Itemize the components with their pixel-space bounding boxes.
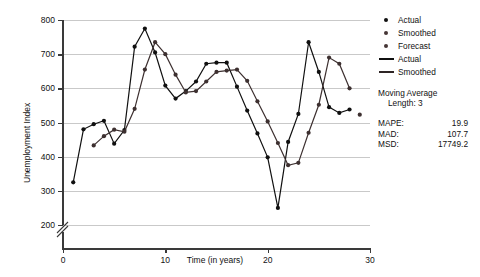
legend-item: Actual [378,53,478,65]
legend-line-icon [378,58,394,60]
x-tick [165,248,166,253]
legend-label: Actual [398,55,421,64]
data-point-smoothed [194,89,198,93]
data-point-actual [71,180,75,184]
x-tick [268,248,269,253]
data-point-actual [133,45,137,49]
method-length: Length: 3 [378,98,478,108]
legend-item: Smoothed [378,27,478,39]
time-series-chart: Unemployment Index 200300400500600700800… [0,0,480,277]
data-point-smoothed [255,99,259,103]
legend-marker-icon [378,44,394,49]
data-point-actual [153,50,157,54]
data-point-smoothed [122,130,126,134]
stat-row: MSD:17749.2 [378,139,478,150]
data-point-actual [337,111,341,115]
data-point-smoothed [173,73,177,77]
data-point-smoothed [133,107,137,111]
legend-item: Smoothed [378,66,478,78]
data-point-smoothed [296,161,300,165]
y-tick-label: 700 [27,50,55,59]
data-point-smoothed [235,67,239,71]
data-point-actual [143,26,147,30]
legend-marker-icon [378,18,394,23]
data-point-smoothed [225,68,229,72]
legend-item: Actual [378,14,478,26]
data-point-smoothed [317,103,321,107]
data-point-actual [81,127,85,131]
data-point-actual [307,40,311,44]
data-point-smoothed [337,62,341,66]
y-tick-label: 300 [27,187,55,196]
data-point-smoothed [214,70,218,74]
method-block: Moving Average Length: 3 [378,88,478,108]
data-point-smoothed [184,90,188,94]
x-axis-line [62,248,370,250]
data-point-smoothed [327,55,331,59]
accuracy-stats: MAPE:19.9MAD:107.7MSD:17749.2 [378,118,478,150]
legend-item: Forecast [378,40,478,52]
data-point-actual [194,79,198,83]
legend-label: Actual [398,16,421,25]
data-point-actual [245,108,249,112]
data-point-actual [286,140,290,144]
data-point-actual [204,62,208,66]
data-point-actual [163,84,167,88]
series-plot [63,20,370,225]
data-point-smoothed [143,67,147,71]
y-tick-label: 400 [27,153,55,162]
x-tick [370,248,371,253]
data-point-actual [266,155,270,159]
data-point-actual [92,122,96,126]
stat-row: MAD:107.7 [378,129,478,140]
data-point-actual [173,96,177,100]
data-point-smoothed [204,79,208,83]
stat-value: 17749.2 [412,139,478,150]
x-tick [63,248,64,253]
legend-marker-icon [378,31,394,36]
legend-label: Smoothed [398,29,436,38]
stat-label: MAD: [378,129,412,140]
data-point-smoothed [102,134,106,138]
y-axis-title: Unemployment Index [22,103,32,183]
data-point-actual [317,70,321,74]
legend-line-icon [378,71,394,73]
stat-value: 19.9 [412,118,478,129]
data-point-smoothed [286,163,290,167]
data-point-actual [296,112,300,116]
data-point-smoothed [245,79,249,83]
data-point-smoothed [92,143,96,147]
data-point-actual [255,131,259,135]
data-point-smoothed [266,119,270,123]
y-tick-label: 200 [27,221,55,230]
y-tick-label: 600 [27,84,55,93]
data-point-actual [102,119,106,123]
chart-legend: ActualSmoothedForecastActualSmoothed [378,14,478,79]
method-title: Moving Average [378,88,478,98]
gridline [63,225,370,226]
y-tick-label: 800 [27,16,55,25]
x-tick-label: 30 [355,256,385,265]
data-point-actual [225,61,229,65]
data-point-smoothed [276,141,280,145]
x-axis-title: Time (in years) [140,255,290,265]
data-point-smoothed [163,52,167,56]
data-point-forecast [358,113,362,117]
data-point-smoothed [112,128,116,132]
legend-label: Forecast [398,42,430,51]
series-line-actual [73,29,349,208]
data-point-actual [235,85,239,89]
data-point-actual [276,206,280,210]
data-point-actual [214,61,218,65]
data-point-smoothed [153,40,157,44]
stat-label: MSD: [378,139,412,150]
legend-label: Smoothed [398,68,436,77]
data-point-smoothed [347,86,351,90]
y-tick-label: 500 [27,119,55,128]
stat-value: 107.7 [412,129,478,140]
series-line-smoothed [94,42,350,165]
data-point-actual [347,107,351,111]
stat-label: MAPE: [378,118,412,129]
plot-area: 200300400500600700800 0102030 [63,20,370,225]
stat-row: MAPE:19.9 [378,118,478,129]
